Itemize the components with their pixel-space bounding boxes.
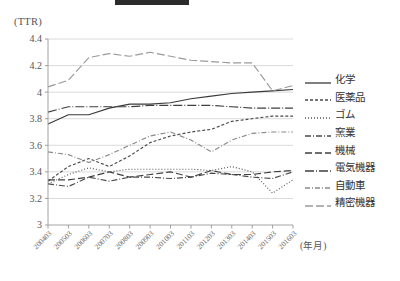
legend-key-dashed-wide-gray — [305, 197, 331, 207]
x-tick-label: 201403 — [236, 229, 258, 251]
legend-key-dash-dot-gray — [305, 179, 331, 189]
legend-item-label: 機械 — [335, 142, 355, 157]
y-tick-label: 4 — [37, 87, 42, 98]
y-tick-label: 4.2 — [30, 60, 43, 71]
y-tick-label: 3.8 — [30, 113, 43, 124]
legend-key-dashed-long — [305, 144, 331, 154]
legend-item-label: 医薬品 — [335, 89, 365, 104]
y-tick-label: 3.2 — [30, 193, 43, 204]
legend-key-dashed-short — [305, 91, 331, 101]
legend-item-label: 化学 — [335, 71, 355, 86]
x-axis-ticks: 2004032005032006032007032008032009032010… — [31, 225, 298, 251]
legend-item-label: ゴム — [335, 106, 355, 121]
legend-key-dash-dot — [305, 127, 331, 137]
legend-key-dotted — [305, 109, 331, 119]
x-tick-label: 201103 — [174, 229, 196, 251]
x-tick-label: 201303 — [215, 229, 237, 251]
y-tick-label: 3.6 — [30, 140, 43, 151]
y-tick-label: 3 — [37, 219, 42, 230]
series-line — [48, 52, 293, 91]
legend-item[interactable]: 自動車 — [305, 176, 397, 194]
chart-page: (TTR) 4.44.243.83.63.43.23 2004032005032… — [0, 0, 400, 281]
x-tick-label: 200703 — [93, 229, 115, 251]
legend-item[interactable]: 機械 — [305, 140, 397, 158]
x-tick-label: 201503 — [256, 229, 278, 251]
x-tick-label: 200803 — [113, 229, 135, 251]
series-line — [48, 167, 293, 194]
x-tick-label: 200503 — [52, 229, 74, 251]
legend-item[interactable]: 精密機器 — [305, 193, 397, 211]
x-tick-label: 200903 — [133, 229, 155, 251]
legend-item[interactable]: 窯業 — [305, 123, 397, 141]
y-axis-ticks: 4.44.243.83.63.43.23 — [30, 33, 49, 230]
series-line — [48, 105, 293, 112]
x-axis-unit-label: (年月) — [300, 238, 326, 252]
legend-item-label: 精密機器 — [335, 194, 375, 209]
x-tick-label: 201203 — [195, 229, 217, 251]
x-tick-label: 201603 — [276, 229, 298, 251]
x-tick-label: 201003 — [154, 229, 176, 251]
x-tick-label: 200403 — [31, 229, 53, 251]
legend-key-solid — [305, 74, 331, 84]
y-tick-label: 3.4 — [30, 166, 43, 177]
legend-item[interactable]: ゴム — [305, 105, 397, 123]
legend-item-label: 電気機器 — [335, 159, 375, 174]
x-tick-label: 200603 — [72, 229, 94, 251]
legend-item[interactable]: 電気機器 — [305, 158, 397, 176]
legend-key-long-dash-dot — [305, 162, 331, 172]
y-tick-label: 4.4 — [30, 33, 43, 44]
legend-item[interactable]: 化学 — [305, 70, 397, 88]
legend-item[interactable]: 医薬品 — [305, 88, 397, 106]
legend: 化学医薬品ゴム窯業機械電気機器自動車精密機器 — [305, 70, 397, 211]
legend-item-label: 窯業 — [335, 124, 355, 139]
legend-item-label: 自動車 — [335, 177, 365, 192]
